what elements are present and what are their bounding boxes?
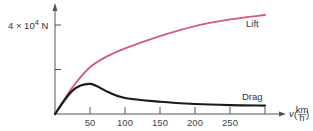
series-lift-line [55,15,265,114]
x-tick-label: 100 [117,117,133,128]
x-tick-label: 50 [85,117,96,128]
x-axis-paren-close: ) [306,109,309,120]
x-tick-label: 200 [187,117,203,128]
x-tick-label: 150 [152,117,168,128]
x-tick-label: 250 [222,117,238,128]
y-axis-arrow-icon [53,3,58,11]
y-tick-label: 4 × 104 N [8,18,48,31]
series-label-lift: Lift [246,18,259,29]
x-axis-unit-den: h [299,112,304,123]
x-axis-arrow-icon [279,112,286,117]
lift-drag-chart: 4 × 104 N50100150200250v(kmh)LiftDrag [0,0,313,131]
series-label-drag: Drag [242,91,263,102]
